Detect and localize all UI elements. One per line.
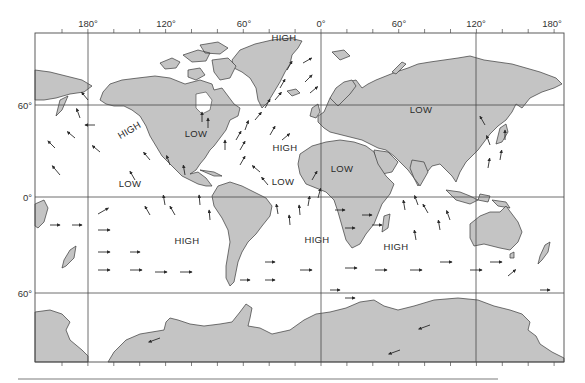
wind-arrow-icon (144, 152, 150, 160)
pressure-high-south-atlantic: HIGH (305, 234, 330, 245)
pressure-low-north-africa: LOW (331, 163, 354, 174)
wind-arrow-icon (276, 204, 278, 214)
wind-arrow-icon (92, 146, 100, 152)
arctic-islands (160, 42, 236, 80)
wind-arrow-icon (245, 121, 248, 130)
australia (470, 206, 522, 250)
wind-arrow-icon (255, 112, 261, 120)
pressure-low-equatorial-pacific: LOW (119, 178, 142, 189)
wind-arrow-icon (318, 188, 321, 198)
wind-arrow-icon (262, 177, 268, 185)
greenland (232, 38, 302, 108)
latitude-labels: 60° 0° 60° (18, 100, 33, 299)
wind-arrow-icon (52, 166, 60, 175)
australia-west-edge (35, 200, 48, 228)
new-zealand-west (62, 246, 76, 268)
tasmania (510, 252, 514, 258)
antarctica (35, 298, 564, 362)
japan (496, 124, 508, 144)
wind-arrow-icon (488, 158, 490, 168)
caribbean-islands (200, 170, 222, 176)
wind-arrow-icon (310, 87, 318, 93)
lon-label: 120° (466, 18, 486, 29)
wind-arrow-icon (98, 208, 108, 214)
lat-label: 60° (18, 288, 33, 299)
pressure-high-greenland: HIGH (272, 32, 297, 43)
wind-arrow-icon (487, 136, 490, 145)
wind-arrow-icon (438, 220, 440, 230)
wind-arrow-icon (252, 166, 260, 172)
wind-arrow-icon (67, 132, 75, 138)
wind-arrow-icon (270, 126, 275, 135)
wind-arrow-icon (403, 200, 405, 210)
lat-label: 0° (23, 192, 32, 203)
wind-arrow-icon (447, 211, 450, 220)
wind-arrow-icon (308, 196, 310, 206)
lon-label: 60° (237, 18, 252, 29)
wind-arrow-icon (282, 134, 290, 140)
wind-arrow-icon (240, 141, 245, 150)
wind-arrow-icon (82, 92, 88, 100)
world-wind-map: 180° 120° 60° 0° 60° 120° 180° 60° 0° 60… (0, 0, 585, 383)
wind-arrow-icon (414, 230, 416, 240)
pressure-high-indian-ocean: HIGH (384, 241, 409, 252)
longitude-labels: 180° 120° 60° 0° 60° 120° 180° (78, 18, 562, 29)
wind-arrow-icon (236, 131, 241, 140)
wind-arrow-icon (48, 141, 55, 148)
wind-arrow-icon (508, 270, 516, 276)
wind-arrow-icon (299, 205, 300, 215)
pressure-high-north-pacific: HIGH (116, 119, 143, 141)
wind-arrow-icon (289, 215, 290, 225)
pressure-low-equatorial-atlantic: LOW (272, 176, 295, 187)
madagascar (382, 214, 390, 232)
wind-arrow-icon (199, 195, 200, 205)
wind-arrow-icon (275, 92, 281, 100)
wind-arrow-icon (170, 206, 175, 215)
lon-label: 60° (392, 18, 407, 29)
lon-label: 0° (316, 18, 325, 29)
pressure-high-south-pacific: HIGH (175, 235, 200, 246)
svalbard (332, 50, 350, 60)
wind-arrow-icon (209, 210, 210, 220)
lon-label: 180° (78, 18, 98, 29)
lon-label: 180° (542, 18, 562, 29)
pressure-low-asia: LOW (410, 104, 433, 115)
chukotka-west (35, 70, 92, 100)
indonesia (446, 190, 510, 208)
pressure-high-north-atlantic: HIGH (273, 142, 298, 153)
wind-arrow-icon (303, 58, 312, 63)
lat-label: 60° (18, 100, 33, 111)
bottom-rule (18, 378, 498, 380)
wind-arrow-icon (423, 204, 428, 213)
kamchatka-west (56, 96, 68, 116)
south-america (212, 182, 272, 286)
iceland (287, 89, 300, 96)
wind-arrow-icon (240, 156, 245, 165)
wind-arrow-icon (500, 150, 502, 160)
lon-label: 120° (156, 18, 176, 29)
wind-arrow-icon (305, 75, 312, 82)
new-zealand-east (538, 242, 550, 264)
wind-arrow-icon (77, 109, 80, 118)
wind-arrow-icon (145, 206, 150, 215)
pressure-low-north-america: LOW (185, 128, 208, 139)
land-masses (35, 38, 564, 362)
